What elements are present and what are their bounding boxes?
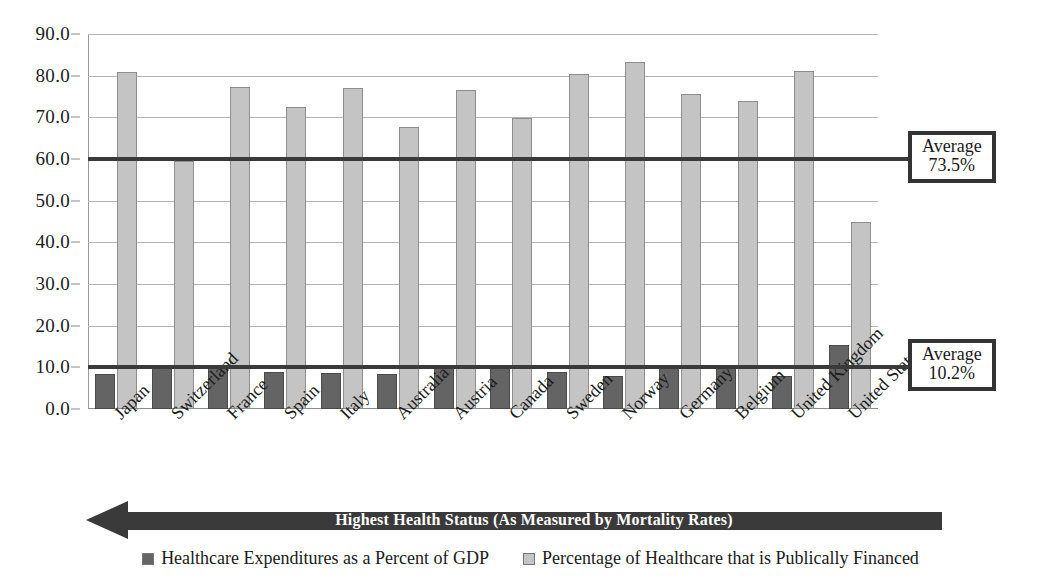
bar-group xyxy=(257,34,313,409)
bar-group xyxy=(144,34,200,409)
bar xyxy=(625,62,645,409)
bar xyxy=(117,72,137,409)
y-axis: 0.010.020.030.040.050.060.070.080.090.0 xyxy=(0,34,80,409)
bar xyxy=(738,101,758,409)
y-axis-tick-mark xyxy=(71,409,80,410)
y-axis-tick-mark xyxy=(71,159,80,160)
square-swatch-icon xyxy=(523,553,535,565)
y-axis-tick-mark xyxy=(71,242,80,243)
bar-group xyxy=(88,34,144,409)
bar xyxy=(152,365,172,409)
y-axis-tick-label: 10.0 xyxy=(36,356,70,378)
bar-group xyxy=(539,34,595,409)
bar-group xyxy=(370,34,426,409)
bar xyxy=(343,88,363,409)
y-axis-tick-label: 50.0 xyxy=(36,190,70,212)
direction-arrow-banner: Highest Health Status (As Measured by Mo… xyxy=(86,500,942,540)
bar-group xyxy=(427,34,483,409)
y-axis-tick-mark xyxy=(71,117,80,118)
average-callout-title: Average xyxy=(922,137,982,156)
y-axis-tick-label: 20.0 xyxy=(36,315,70,337)
bar xyxy=(321,373,341,409)
bar-chart: 0.010.020.030.040.050.060.070.080.090.0 … xyxy=(0,0,1061,584)
y-axis-tick-label: 90.0 xyxy=(36,23,70,45)
average-callout-box: Average73.5% xyxy=(908,131,996,183)
y-axis-tick-label: 30.0 xyxy=(36,273,70,295)
bar xyxy=(456,90,476,409)
bar xyxy=(174,161,194,409)
y-axis-tick-mark xyxy=(71,367,80,368)
chart-legend: Healthcare Expenditures as a Percent of … xyxy=(0,548,1061,569)
bar xyxy=(377,374,397,409)
average-callout-title: Average xyxy=(922,345,982,364)
legend-item: Percentage of Healthcare that is Publica… xyxy=(523,548,919,569)
reference-line xyxy=(88,157,908,161)
y-axis-tick-label: 80.0 xyxy=(36,65,70,87)
x-axis-labels: JapanSwitzerlandFranceSpainItalyAustrali… xyxy=(88,409,878,504)
bar-group xyxy=(652,34,708,409)
bar-group xyxy=(765,34,821,409)
average-callout-value: 10.2% xyxy=(922,364,982,383)
y-axis-tick-mark xyxy=(71,325,80,326)
y-axis-tick-mark xyxy=(71,34,80,35)
y-axis-tick-label: 40.0 xyxy=(36,231,70,253)
y-axis-tick-mark xyxy=(71,75,80,76)
bar xyxy=(569,74,589,409)
bar-group xyxy=(709,34,765,409)
left-arrow-icon xyxy=(86,500,942,540)
bar-group xyxy=(314,34,370,409)
bar-group xyxy=(483,34,539,409)
bars-layer xyxy=(88,34,878,409)
legend-item: Healthcare Expenditures as a Percent of … xyxy=(142,548,489,569)
y-axis-tick-label: 70.0 xyxy=(36,106,70,128)
bar xyxy=(794,71,814,409)
average-callout-value: 73.5% xyxy=(922,156,982,175)
bar xyxy=(681,94,701,409)
y-axis-tick-label: 0.0 xyxy=(45,398,70,420)
plot-area xyxy=(88,34,878,409)
legend-item-label: Healthcare Expenditures as a Percent of … xyxy=(161,548,489,569)
bar xyxy=(851,222,871,409)
average-callout-box: Average10.2% xyxy=(908,339,996,391)
y-axis-tick-mark xyxy=(71,284,80,285)
bar-group xyxy=(596,34,652,409)
legend-item-label: Percentage of Healthcare that is Publica… xyxy=(542,548,919,569)
y-axis-tick-label: 60.0 xyxy=(36,148,70,170)
bar xyxy=(95,374,115,409)
y-axis-tick-mark xyxy=(71,200,80,201)
square-swatch-icon xyxy=(142,553,154,565)
reference-line xyxy=(88,365,908,369)
